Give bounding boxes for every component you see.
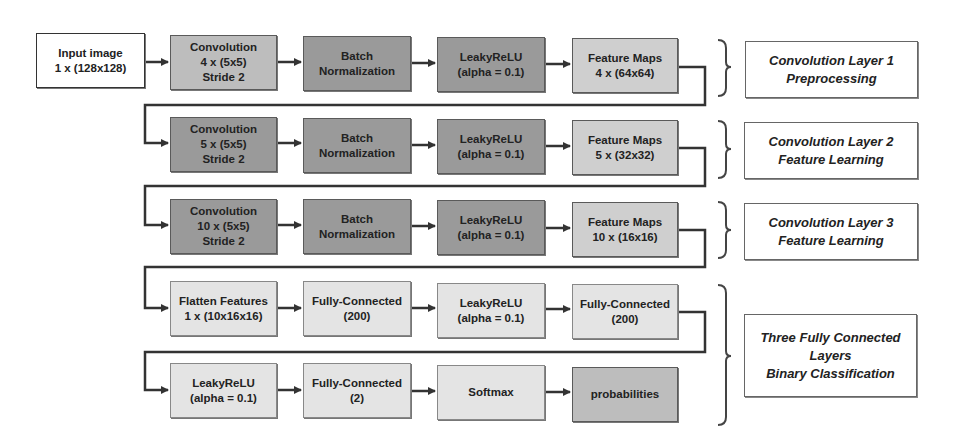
group-label-fc-layers-text: Three Fully Connected Layers Binary Clas… xyxy=(760,329,900,383)
batchnorm3-label: Batch Normalization xyxy=(319,212,395,242)
conv1-label: Convolution 4 x (5x5) Stride 2 xyxy=(190,40,257,85)
batchnorm2-label: Batch Normalization xyxy=(319,131,395,161)
conv3-label: Convolution 10 x (5x5) Stride 2 xyxy=(190,204,257,249)
leakyrelu1-block: LeakyReLU (alpha = 0.1) xyxy=(437,37,545,92)
featuremaps3-block: Feature Maps 10 x (16x16) xyxy=(572,202,678,257)
leakyrelu2-block: LeakyReLU (alpha = 0.1) xyxy=(437,119,545,174)
flatten-label: Flatten Features 1 x (10x16x16) xyxy=(179,294,268,324)
batchnorm2-block: Batch Normalization xyxy=(303,118,411,173)
leakyrelu4-label: LeakyReLU (alpha = 0.1) xyxy=(458,296,525,326)
group-label-conv-layer-3: Convolution Layer 3 Feature Learning xyxy=(744,203,918,260)
cnn-architecture-diagram: Input image 1 x (128x128) Convolution 4 … xyxy=(0,0,963,445)
batchnorm3-block: Batch Normalization xyxy=(303,199,411,254)
batchnorm1-block: Batch Normalization xyxy=(303,36,411,91)
leakyrelu5-block: LeakyReLU (alpha = 0.1) xyxy=(170,363,277,418)
softmax-label: Softmax xyxy=(468,385,513,400)
brace-layer3 xyxy=(718,202,731,258)
fc2-label: Fully-Connected (200) xyxy=(580,297,670,327)
conv2-label: Convolution 5 x (5x5) Stride 2 xyxy=(190,122,257,167)
group-label-conv-layer-1: Convolution Layer 1 Preprocessing xyxy=(745,41,918,98)
input-image-block: Input image 1 x (128x128) xyxy=(36,33,145,88)
probabilities-block: probabilities xyxy=(572,367,678,422)
conv3-block: Convolution 10 x (5x5) Stride 2 xyxy=(170,199,277,254)
input-image-label: Input image 1 x (128x128) xyxy=(55,46,127,76)
featuremaps1-label: Feature Maps 4 x (64x64) xyxy=(588,51,662,81)
featuremaps2-block: Feature Maps 5 x (32x32) xyxy=(572,120,678,175)
leakyrelu3-block: LeakyReLU (alpha = 0.1) xyxy=(437,200,545,255)
featuremaps2-label: Feature Maps 5 x (32x32) xyxy=(588,133,662,163)
featuremaps1-block: Feature Maps 4 x (64x64) xyxy=(572,38,678,93)
group-label-conv-layer-1-text: Convolution Layer 1 Preprocessing xyxy=(769,52,894,88)
conv2-block: Convolution 5 x (5x5) Stride 2 xyxy=(170,117,277,172)
softmax-block: Softmax xyxy=(437,365,545,420)
featuremaps3-label: Feature Maps 10 x (16x16) xyxy=(588,215,662,245)
brace-layer2 xyxy=(718,121,731,178)
leakyrelu4-block: LeakyReLU (alpha = 0.1) xyxy=(437,283,545,338)
fc3-block: Fully-Connected (2) xyxy=(303,363,411,418)
conv1-block: Convolution 4 x (5x5) Stride 2 xyxy=(170,35,277,90)
leakyrelu5-label: LeakyReLU (alpha = 0.1) xyxy=(190,376,257,406)
probabilities-label: probabilities xyxy=(591,387,659,402)
fc3-label: Fully-Connected (2) xyxy=(312,376,402,406)
flatten-block: Flatten Features 1 x (10x16x16) xyxy=(170,281,277,336)
brace-fc-layers xyxy=(718,285,731,425)
leakyrelu2-label: LeakyReLU (alpha = 0.1) xyxy=(458,132,525,162)
fc2-block: Fully-Connected (200) xyxy=(572,284,678,339)
fc1-label: Fully-Connected (200) xyxy=(312,294,402,324)
leakyrelu1-label: LeakyReLU (alpha = 0.1) xyxy=(458,50,525,80)
group-label-conv-layer-3-text: Convolution Layer 3 Feature Learning xyxy=(769,214,894,250)
fc1-block: Fully-Connected (200) xyxy=(303,281,411,336)
group-label-fc-layers: Three Fully Connected Layers Binary Clas… xyxy=(744,314,917,397)
brace-layer1 xyxy=(718,40,731,96)
group-label-conv-layer-2-text: Convolution Layer 2 Feature Learning xyxy=(769,133,894,169)
group-label-conv-layer-2: Convolution Layer 2 Feature Learning xyxy=(744,122,918,179)
leakyrelu3-label: LeakyReLU (alpha = 0.1) xyxy=(458,213,525,243)
batchnorm1-label: Batch Normalization xyxy=(319,49,395,79)
